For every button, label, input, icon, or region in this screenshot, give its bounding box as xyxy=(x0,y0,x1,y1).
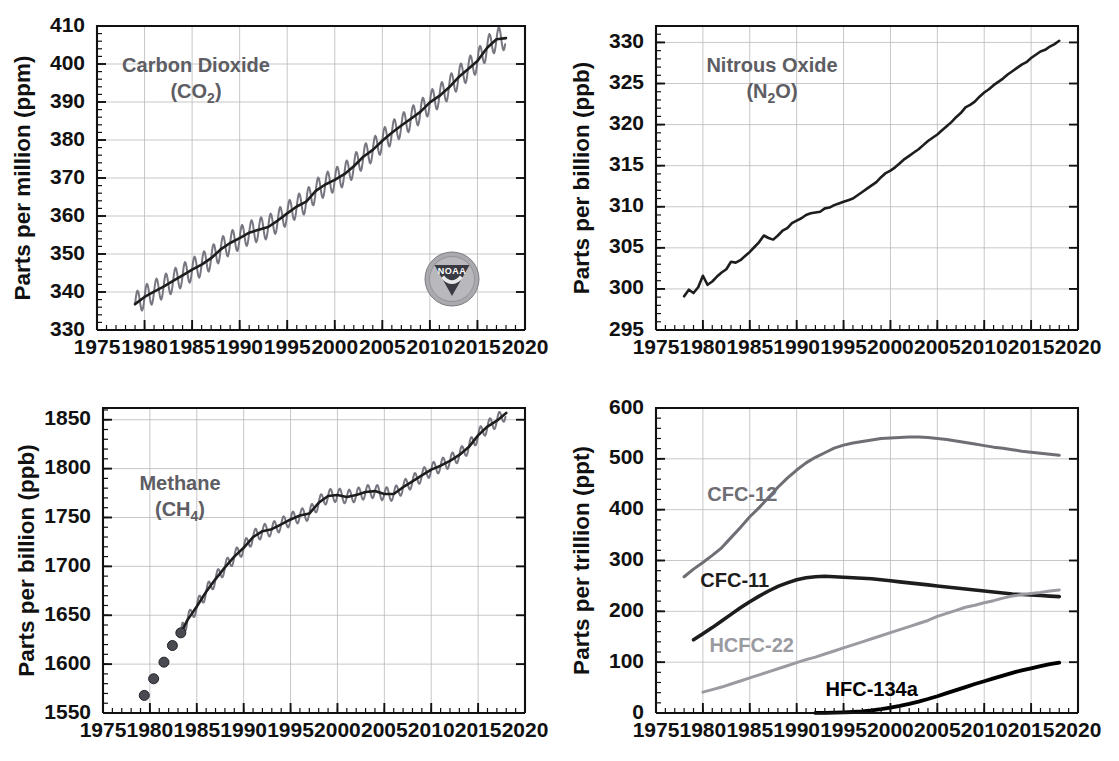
y-tick-label: 300 xyxy=(609,275,644,298)
data-point-marker xyxy=(176,628,186,638)
methane-svg: 1550160016501700175018001850197519801985… xyxy=(0,380,560,761)
x-tick-label: 2010 xyxy=(961,718,1008,741)
x-tick-label: 2020 xyxy=(502,718,549,741)
y-tick-label: 200 xyxy=(609,598,644,621)
x-tick-label: 1985 xyxy=(726,718,773,741)
y-tick-label: 325 xyxy=(609,70,644,93)
x-tick-label: 2005 xyxy=(914,335,961,358)
panel-title: Carbon Dioxide xyxy=(122,54,270,76)
noaa-logo-text: NOAA xyxy=(438,266,467,276)
greenhouse-gas-figure: 3303403503603703803904004101975198019851… xyxy=(0,0,1119,761)
y-tick-label: 310 xyxy=(609,193,644,216)
x-tick-label: 2015 xyxy=(455,718,502,741)
x-tick-label: 1975 xyxy=(80,718,127,741)
x-tick-label: 1995 xyxy=(820,718,867,741)
y-tick-label: 100 xyxy=(609,649,644,672)
y-tick-label: 390 xyxy=(50,89,85,112)
grid-lines xyxy=(656,408,1078,713)
series-label-cfc-11: CFC-11 xyxy=(700,569,769,591)
panel-title-formula: (CH4) xyxy=(155,498,205,524)
series-line-n2o xyxy=(684,41,1059,297)
data-point-marker xyxy=(139,690,149,700)
tick-group: 1550160016501700175018001850197519801985… xyxy=(44,406,548,741)
chart-panel-halocarbons: CFC-12CFC-11HCFC-22HFC-134a0100200300400… xyxy=(559,380,1119,761)
x-tick-label: 1985 xyxy=(173,718,220,741)
y-tick-label: 300 xyxy=(609,547,644,570)
x-tick-label: 2015 xyxy=(1008,718,1055,741)
panel-title: Nitrous Oxide xyxy=(706,54,837,76)
x-tick-label: 1990 xyxy=(220,718,267,741)
series-label-cfc-12: CFC-12 xyxy=(707,483,777,505)
y-tick-label: 1600 xyxy=(44,651,91,674)
x-tick-label: 2005 xyxy=(914,718,961,741)
y-tick-label: 350 xyxy=(50,241,85,264)
carbon-dioxide-svg: 3303403503603703803904004101975198019851… xyxy=(0,0,560,380)
y-tick-label: 315 xyxy=(609,152,644,175)
y-axis-title: Parts per billion (ppb) xyxy=(569,62,594,295)
y-tick-label: 340 xyxy=(50,279,85,302)
x-tick-label: 2005 xyxy=(361,718,408,741)
y-tick-label: 370 xyxy=(50,165,85,188)
x-tick-label: 1975 xyxy=(633,718,680,741)
y-tick-label: 500 xyxy=(609,445,644,468)
x-tick-label: 1980 xyxy=(121,335,168,358)
data-point-marker xyxy=(167,641,177,651)
y-tick-label: 305 xyxy=(609,234,644,257)
data-point-marker xyxy=(159,657,169,667)
x-tick-label: 1975 xyxy=(633,335,680,358)
y-tick-label: 1650 xyxy=(44,602,91,625)
x-tick-label: 2020 xyxy=(1055,718,1102,741)
y-axis-title: Parts per billion (ppb) xyxy=(14,444,39,677)
ch4-plot-group: 1550160016501700175018001850197519801985… xyxy=(14,406,548,741)
data-point-marker xyxy=(149,674,159,684)
y-axis-title: Parts per million (ppm) xyxy=(10,55,35,300)
tick-group: 2953003053103153203253301975198019851990… xyxy=(609,26,1101,358)
noaa-logo: NOAA xyxy=(425,252,479,306)
x-tick-label: 2020 xyxy=(502,335,549,358)
y-tick-label: 1850 xyxy=(44,406,91,429)
x-tick-label: 2000 xyxy=(311,335,358,358)
x-tick-label: 2010 xyxy=(961,335,1008,358)
chart-panel-nitrous-oxide: 2953003053103153203253301975198019851990… xyxy=(559,0,1119,380)
data-series-group xyxy=(684,41,1059,297)
x-tick-label: 1980 xyxy=(127,718,174,741)
nitrous-oxide-svg: 2953003053103153203253301975198019851990… xyxy=(559,0,1119,380)
x-tick-label: 1990 xyxy=(216,335,263,358)
x-tick-label: 2015 xyxy=(1008,335,1055,358)
y-tick-label: 380 xyxy=(50,127,85,150)
x-tick-label: 1985 xyxy=(169,335,216,358)
x-tick-label: 1995 xyxy=(820,335,867,358)
y-tick-label: 1800 xyxy=(44,455,91,478)
series-label-hcfc-22: HCFC-22 xyxy=(709,634,793,656)
x-tick-label: 2000 xyxy=(867,335,914,358)
x-tick-label: 2020 xyxy=(1055,335,1102,358)
y-tick-label: 410 xyxy=(50,13,85,36)
y-tick-label: 400 xyxy=(50,51,85,74)
y-tick-label: 330 xyxy=(609,29,644,52)
x-tick-label: 2005 xyxy=(359,335,406,358)
x-tick-label: 1980 xyxy=(680,718,727,741)
x-tick-label: 2010 xyxy=(407,335,454,358)
series-label-hfc-134a: HFC-134a xyxy=(826,678,919,700)
x-tick-label: 2000 xyxy=(314,718,361,741)
x-tick-label: 1990 xyxy=(773,718,820,741)
chart-panel-carbon-dioxide: 3303403503603703803904004101975198019851… xyxy=(0,0,560,380)
y-tick-label: 320 xyxy=(609,111,644,134)
data-series-group xyxy=(139,412,506,700)
panel-title: Methane xyxy=(139,472,220,494)
y-tick-label: 360 xyxy=(50,203,85,226)
x-tick-label: 1995 xyxy=(264,335,311,358)
halocarbon-plot-group: CFC-12CFC-11HCFC-22HFC-134a0100200300400… xyxy=(569,395,1101,742)
x-tick-label: 1980 xyxy=(680,335,727,358)
y-tick-label: 1750 xyxy=(44,504,91,527)
co2-plot-group: 3303403503603703803904004101975198019851… xyxy=(10,13,548,359)
x-tick-label: 1985 xyxy=(726,335,773,358)
n2o-plot-group: 2953003053103153203253301975198019851990… xyxy=(569,26,1101,358)
x-tick-label: 1990 xyxy=(773,335,820,358)
x-tick-label: 1995 xyxy=(267,718,314,741)
y-tick-label: 1700 xyxy=(44,553,91,576)
x-tick-label: 2015 xyxy=(454,335,501,358)
series-line-cfc-12 xyxy=(684,437,1059,577)
series-line-ch4-trend xyxy=(181,413,506,633)
y-axis-title: Parts per trillion (ppt) xyxy=(569,446,594,675)
